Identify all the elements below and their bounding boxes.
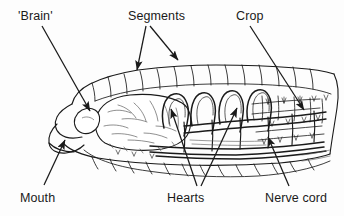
- worm-illustration: [0, 0, 344, 216]
- dorsal-blood-vessel: [184, 112, 326, 133]
- label-brain: 'Brain': [18, 10, 53, 23]
- posterior-septa-grid: [252, 96, 324, 140]
- arrow-brain: [42, 26, 90, 111]
- brain-ganglion: [74, 108, 99, 133]
- label-mouth: Mouth: [20, 192, 55, 205]
- label-crop: Crop: [236, 10, 264, 23]
- label-segments: Segments: [128, 10, 185, 23]
- arrow-segments-1: [137, 26, 146, 70]
- label-hearts: Hearts: [167, 192, 204, 205]
- arrow-segments-2: [150, 26, 178, 60]
- arrow-nerve-cord: [268, 137, 289, 186]
- label-nerve-cord: Nerve cord: [265, 192, 327, 205]
- earthworm-anatomy-diagram: 'Brain' Segments Crop Mouth Hearts Nerve…: [0, 0, 344, 216]
